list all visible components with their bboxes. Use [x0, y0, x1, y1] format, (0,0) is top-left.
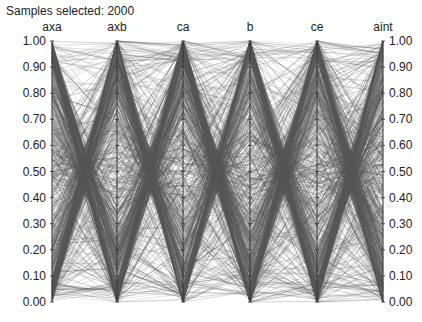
tick-label: 1.00: [2, 35, 46, 47]
tick-label: 0.10: [2, 270, 46, 282]
tick-label: 0.90: [2, 61, 46, 73]
tick-label: 0.20: [389, 244, 412, 256]
tick-label: 0.00: [2, 296, 46, 308]
tick-label: 0.70: [2, 113, 46, 125]
axis-label-aint: aint: [373, 20, 392, 34]
tick-label: 0.00: [389, 296, 412, 308]
axis-label-ce: ce: [311, 20, 324, 34]
tick-label: 0.60: [2, 139, 46, 151]
axis-label-axb: axb: [107, 20, 126, 34]
tick-label: 0.30: [2, 218, 46, 230]
tick-label: 0.80: [389, 87, 412, 99]
tick-label: 0.40: [2, 192, 46, 204]
tick-label: 0.20: [2, 244, 46, 256]
axis-label-ca: ca: [177, 20, 190, 34]
tick-label: 0.70: [389, 113, 412, 125]
tick-label: 0.50: [389, 166, 412, 178]
tick-label: 0.90: [389, 61, 412, 73]
tick-label: 1.00: [389, 35, 412, 47]
parallel-coordinates-plot: [0, 0, 422, 322]
axis-label-b: b: [247, 20, 254, 34]
tick-label: 0.10: [389, 270, 412, 282]
tick-label: 0.50: [2, 166, 46, 178]
tick-label: 0.40: [389, 192, 412, 204]
tick-label: 0.80: [2, 87, 46, 99]
sample-lines: [52, 41, 383, 302]
tick-label: 0.60: [389, 139, 412, 151]
tick-label: 0.30: [389, 218, 412, 230]
axis-label-axa: axa: [42, 20, 61, 34]
